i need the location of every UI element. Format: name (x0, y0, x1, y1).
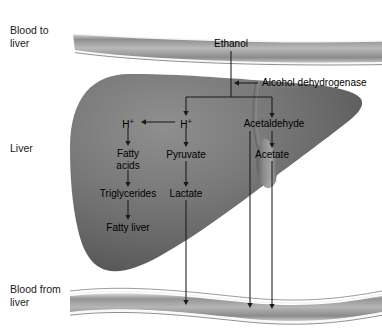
node-acetate: Acetate (255, 149, 289, 161)
region-label-blood-from-liver: Blood from liver (10, 283, 61, 308)
blood-vessel-from-liver (70, 288, 382, 324)
diagram-graphics (0, 0, 382, 330)
node-acetaldehyde: Acetaldehyde (244, 118, 305, 130)
node-fatty-acids: Fatty acids (116, 148, 139, 171)
region-label-liver: Liver (10, 142, 33, 155)
region-label-blood-to-liver: Blood to liver (10, 24, 49, 49)
region-label-line2: liver (10, 296, 61, 309)
node-pyruvate: Pyruvate (166, 149, 205, 161)
node-alcohol-dehydrogenase: Alcohol dehydrogenase (262, 77, 367, 88)
region-label-line1: Blood from (10, 283, 61, 296)
node-ethanol: Ethanol (214, 38, 248, 49)
diagram-canvas: Blood to liver Liver Blood from liver Et… (0, 0, 382, 330)
region-label-line2: liver (10, 37, 49, 50)
node-fatty-liver: Fatty liver (106, 222, 149, 234)
region-label-line1: Liver (10, 142, 33, 155)
node-lactate: Lactate (170, 188, 203, 200)
node-h-plus-left: H+ (122, 116, 134, 131)
node-h-plus-right: H+ (180, 116, 192, 131)
node-triglycerides: Triglycerides (100, 188, 156, 200)
region-label-line1: Blood to (10, 24, 49, 37)
liver-organ (70, 74, 362, 271)
